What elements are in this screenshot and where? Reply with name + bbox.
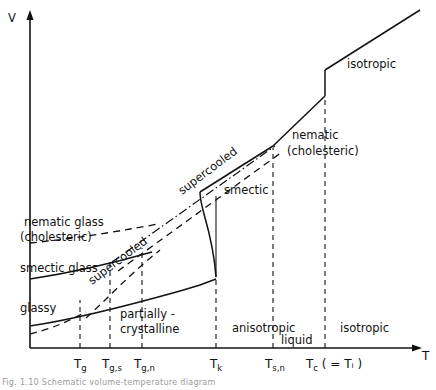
label-smectic-glass: smectic glass bbox=[20, 261, 98, 275]
svg-text:Tg,n: Tg,n bbox=[133, 357, 155, 373]
label-nematic-glass: nematic glass bbox=[24, 215, 104, 229]
tick-label-tk: Tk bbox=[209, 357, 222, 373]
label-isotropic-top: isotropic bbox=[347, 57, 396, 71]
tick-tk-sub: k bbox=[217, 363, 222, 373]
tick-tgn-sub: g,n bbox=[141, 363, 155, 373]
x-axis-arrowhead bbox=[412, 344, 422, 351]
label-partially: partially - bbox=[120, 307, 175, 321]
region-text-labels: V T isotropic nematic (cholesteric) smec… bbox=[8, 11, 430, 363]
tick-tg-sub: g bbox=[81, 363, 86, 373]
label-nematic: nematic bbox=[292, 128, 339, 142]
figure-volume-temperature-diagram: V T isotropic nematic (cholesteric) smec… bbox=[0, 0, 436, 390]
tick-label-tgn: Tg,n bbox=[133, 357, 155, 373]
label-crystalline: crystalline bbox=[120, 322, 179, 336]
x-tick-labels: Tg Tg,s Tg,n Tk Ts,n bbox=[73, 357, 362, 373]
tick-tsn-sub: s,n bbox=[272, 363, 285, 373]
y-axis-arrowhead bbox=[26, 10, 33, 20]
x-axis-label: T bbox=[421, 349, 430, 363]
svg-text:Tc ( = Tᵢ ): Tc ( = Tᵢ ) bbox=[305, 357, 362, 373]
vertical-guides bbox=[80, 96, 325, 348]
svg-text:Tg,s: Tg,s bbox=[101, 357, 122, 373]
svg-text:Tk: Tk bbox=[209, 357, 222, 373]
label-smectic: smectic bbox=[224, 183, 269, 197]
tick-label-tgs: Tg,s bbox=[101, 357, 122, 373]
glassy-dashed-line bbox=[30, 312, 86, 334]
label-isotropic-bottom: isotropic bbox=[340, 321, 389, 335]
tick-tc-suffix: ( = Tᵢ ) bbox=[318, 357, 362, 371]
svg-text:Tg: Tg bbox=[73, 357, 87, 373]
y-axis-label: V bbox=[8, 11, 16, 25]
melting-rise bbox=[200, 192, 216, 277]
label-cholesteric: (cholesteric) bbox=[287, 144, 359, 158]
tick-label-tsn: Ts,n bbox=[264, 357, 285, 373]
figure-caption: Fig. 1.10 Schematic volume-temperature d… bbox=[2, 378, 216, 387]
diagram-svg: V T isotropic nematic (cholesteric) smec… bbox=[0, 0, 436, 390]
svg-text:Ts,n: Ts,n bbox=[264, 357, 285, 373]
tick-label-tc: Tc ( = Tᵢ ) bbox=[305, 357, 362, 373]
tick-tgs-sub: g,s bbox=[109, 363, 122, 373]
label-nematic-glass-paren: (cholesteric) bbox=[20, 230, 92, 244]
label-liquid: liquid bbox=[281, 333, 312, 347]
tick-label-tg: Tg bbox=[73, 357, 87, 373]
label-glassy: glassy bbox=[20, 301, 57, 315]
